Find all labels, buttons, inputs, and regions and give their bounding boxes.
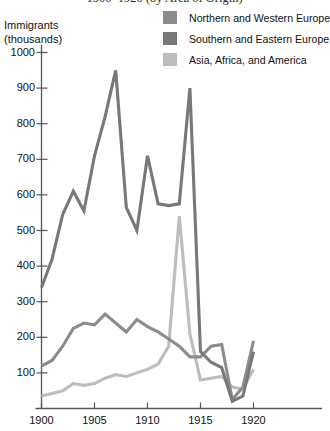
y-axis-tick-label: 700 [2, 153, 35, 164]
x-axis-tick-label: 1910 [125, 415, 171, 426]
x-axis-tick-label: 1915 [178, 415, 224, 426]
y-axis-tick-label: 200 [2, 331, 35, 342]
y-axis-tick-label: 400 [2, 260, 35, 271]
y-axis-tick-label: 1000 [2, 47, 35, 58]
x-axis-tick-label: 1920 [231, 415, 277, 426]
y-axis-tick-label: 100 [2, 367, 35, 378]
x-axis-tick-label: 1900 [19, 415, 65, 426]
y-axis-tick-label: 500 [2, 225, 35, 236]
series-line [42, 314, 254, 399]
y-axis-tick-label: 600 [2, 189, 35, 200]
y-axis-tick-label: 300 [2, 296, 35, 307]
x-axis-tick-label: 1905 [72, 415, 118, 426]
y-axis-tick-label: 900 [2, 82, 35, 93]
y-axis-tick-label: 800 [2, 118, 35, 129]
